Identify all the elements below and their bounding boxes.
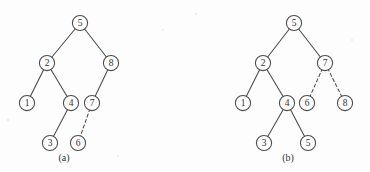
node-label: 1 [241, 98, 246, 108]
node-label: 7 [90, 98, 95, 108]
node-label: 6 [305, 98, 310, 108]
node-label: 2 [261, 58, 266, 68]
scan-artifacts [7, 13, 353, 157]
tree-node[interactable]: 5 [286, 15, 301, 30]
node-label: 4 [69, 98, 74, 108]
tree-node[interactable]: 4 [63, 95, 78, 110]
tree-node[interactable]: 8 [103, 55, 118, 70]
node-label: 5 [306, 138, 311, 148]
tree-node[interactable]: 7 [84, 95, 99, 110]
node-label: 3 [48, 138, 53, 148]
node-label: 7 [323, 58, 328, 68]
tree-node[interactable]: 5 [72, 15, 87, 30]
binary-tree-figure: 5 2 8 1 4 [0, 0, 370, 172]
tree-node[interactable]: 6 [70, 135, 85, 150]
tree-node[interactable]: 1 [235, 95, 250, 110]
panel-caption-a: (a) [58, 152, 69, 164]
panel-a-edges [27, 23, 111, 143]
node-label: 4 [285, 98, 290, 108]
tree-node[interactable]: 3 [256, 135, 271, 150]
node-label: 5 [78, 18, 83, 28]
tree-node[interactable]: 2 [39, 55, 54, 70]
node-label: 3 [262, 138, 267, 148]
tree-node[interactable]: 2 [255, 55, 270, 70]
node-label: 2 [45, 58, 50, 68]
node-label: 5 [292, 18, 297, 28]
panel-b: 5 2 7 1 4 [235, 15, 352, 164]
node-label: 6 [76, 138, 81, 148]
node-label: 1 [25, 98, 30, 108]
node-label: 8 [343, 98, 348, 108]
panel-a: 5 2 8 1 4 [19, 15, 118, 164]
tree-node[interactable]: 5 [300, 135, 315, 150]
tree-node[interactable]: 4 [279, 95, 294, 110]
tree-node[interactable]: 6 [299, 95, 314, 110]
panel-caption-b: (b) [282, 152, 294, 164]
node-label: 8 [109, 58, 114, 68]
tree-node[interactable]: 8 [337, 95, 352, 110]
tree-node[interactable]: 7 [317, 55, 332, 70]
tree-node[interactable]: 3 [42, 135, 57, 150]
figure-root: 5 2 8 1 4 [0, 0, 370, 172]
panel-b-edges [243, 23, 345, 143]
tree-node[interactable]: 1 [19, 95, 34, 110]
